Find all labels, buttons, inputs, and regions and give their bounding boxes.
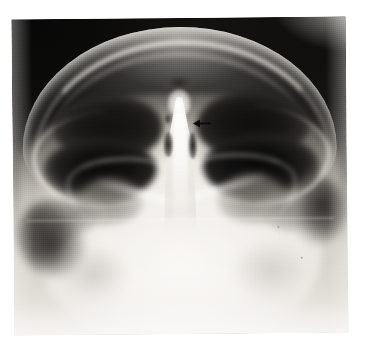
mandible-shadow-right — [234, 241, 305, 302]
maxillary-antrum-right-region — [217, 172, 288, 226]
film-speck — [277, 226, 279, 228]
sinus-cavity-right-upper-region — [196, 89, 310, 160]
antrum-left-shadow — [47, 193, 101, 238]
petrous-band-right — [174, 171, 269, 206]
ethmoid-air-cell-right — [188, 132, 197, 159]
cranial-vault-inner-rim — [42, 51, 317, 208]
maxillary-antrum-left-region — [76, 176, 143, 227]
skull-base-line-right — [167, 146, 301, 241]
ethmoid-air-cell-left — [164, 132, 173, 157]
frontal-sinus-notch — [164, 76, 194, 92]
neck-shadow-left — [20, 215, 87, 279]
cranial-vault-rim — [32, 39, 334, 217]
skull-base-core — [40, 156, 322, 336]
annotation-arrow-icon — [193, 119, 211, 128]
lateral-air-shadow-left — [17, 199, 78, 269]
air-background-left-region — [11, 16, 199, 165]
nasal-septum-core — [172, 103, 188, 230]
mandible-shadow-left — [60, 246, 127, 304]
print-edge-fade — [11, 16, 348, 335]
skull-base-soft-tissue — [19, 92, 342, 335]
radiograph-image — [11, 16, 348, 335]
zygomatic-arch-right-region — [174, 101, 333, 210]
lateral-air-shadow-right — [290, 174, 347, 244]
cranial-vault-outline-region — [22, 26, 338, 225]
nasal-septum-midline-region — [156, 97, 204, 236]
skull-base-line-left — [63, 152, 192, 241]
sinus-cavity-left-lower-region — [43, 138, 157, 202]
nasal-septum-tip — [167, 89, 191, 114]
petrous-band-left — [94, 177, 186, 210]
sinus-cavity-right-lower-region — [203, 134, 321, 201]
film-grain — [11, 16, 348, 335]
radiograph-film — [11, 16, 348, 335]
mandible-region — [60, 219, 302, 336]
sinus-cavity-left-upper-region — [52, 94, 163, 161]
film-speck — [301, 257, 303, 259]
ethmoid-air-cell-upper — [165, 114, 172, 124]
film-background-gradient — [11, 16, 348, 335]
figure-page — [0, 0, 370, 350]
film-fog-top-right — [272, 16, 349, 55]
antrum-right-shadow — [260, 187, 317, 232]
zygomatic-arch-left-region — [29, 105, 186, 213]
print-seam-line — [27, 217, 334, 221]
